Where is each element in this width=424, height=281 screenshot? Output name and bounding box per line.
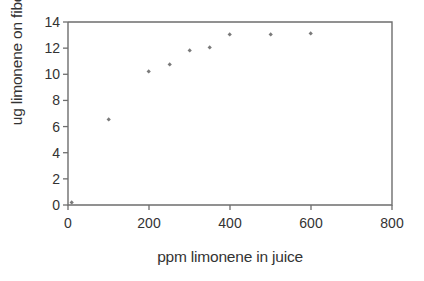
- y-tick-label: 2: [34, 172, 60, 186]
- y-tick-label: 14: [34, 15, 60, 29]
- y-axis-title: ug limonene on fiber: [8, 0, 26, 152]
- chart-figure: 02468101214 0200400600800 ug limonene on…: [0, 0, 424, 281]
- y-tick-label: 12: [34, 41, 60, 55]
- plot-frame: [68, 22, 392, 205]
- plot-area: [0, 0, 424, 281]
- data-point: [207, 46, 212, 51]
- x-axis-ticks: [68, 205, 392, 210]
- y-tick-label: 0: [34, 198, 60, 212]
- x-axis-tick-labels: 0200400600800: [0, 216, 424, 236]
- y-tick-label: 8: [34, 93, 60, 107]
- data-point: [167, 62, 172, 67]
- x-tick-label: 800: [372, 216, 412, 230]
- data-point: [309, 31, 314, 36]
- data-point: [228, 33, 233, 38]
- data-point: [147, 69, 152, 74]
- y-tick-label: 10: [34, 67, 60, 81]
- data-point: [106, 118, 111, 123]
- data-point: [70, 200, 75, 205]
- x-axis-title: ppm limonene in juice: [68, 248, 392, 266]
- x-tick-label: 200: [129, 216, 169, 230]
- data-point: [187, 48, 192, 53]
- y-tick-label: 6: [34, 120, 60, 134]
- data-point: [268, 33, 273, 38]
- y-tick-label: 4: [34, 146, 60, 160]
- y-axis-ticks: [63, 22, 68, 205]
- y-axis-tick-labels: 02468101214: [30, 0, 60, 281]
- x-tick-label: 400: [210, 216, 250, 230]
- x-tick-label: 0: [48, 216, 88, 230]
- x-tick-label: 600: [291, 216, 331, 230]
